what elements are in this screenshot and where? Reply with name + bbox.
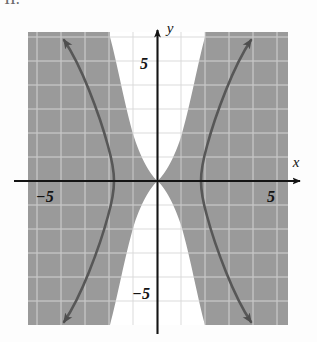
hyperbola-graph: y x 5 −5 −5 5 — [0, 0, 317, 342]
figure-root: 11. — [0, 0, 317, 342]
y-tick-label-minus-5: −5 — [132, 285, 150, 302]
x-axis-label: x — [292, 154, 300, 170]
x-tick-label-minus-5: −5 — [36, 188, 54, 205]
y-tick-label-5: 5 — [140, 55, 148, 72]
y-axis-label: y — [165, 20, 174, 36]
x-tick-label-5: 5 — [267, 188, 275, 205]
